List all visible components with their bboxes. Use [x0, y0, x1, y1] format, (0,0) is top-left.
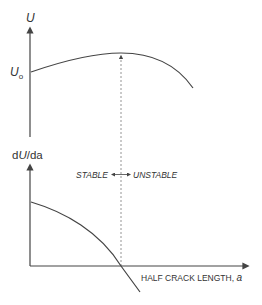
- crack-stability-diagram: U Uo STABLE UNSTABLE dU/da HALF CRACK LE…: [0, 0, 262, 305]
- stable-label: STABLE: [76, 170, 108, 180]
- x-axis-label: HALF CRACK LENGTH, a: [141, 272, 242, 283]
- top-y-axis-label: U: [26, 11, 35, 25]
- bottom-plot: dU/da HALF CRACK LENGTH, a: [12, 149, 246, 292]
- unstable-label: UNSTABLE: [133, 170, 178, 180]
- energy-curve: [31, 53, 193, 88]
- u-zero-label: Uo: [10, 65, 24, 81]
- bottom-y-axis-label: dU/da: [12, 149, 43, 161]
- stability-annotation: STABLE UNSTABLE: [76, 170, 178, 180]
- energy-derivative-curve: [31, 202, 140, 292]
- top-plot: U Uo: [10, 11, 193, 137]
